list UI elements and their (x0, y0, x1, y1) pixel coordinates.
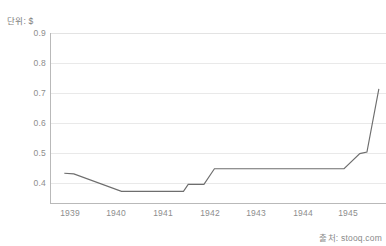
y-axis-line (50, 33, 51, 204)
chart-title-clipped (0, 0, 386, 1)
chart-container: 단위: $ 0.9 0.8 0.7 0.6 0.5 0.4 1939 1940 … (0, 0, 386, 246)
y-tick-label: 0.5 (6, 148, 46, 158)
y-tick-label: 0.8 (6, 58, 46, 68)
x-tick-label: 1941 (153, 208, 173, 218)
x-tick-label: 1940 (106, 208, 126, 218)
x-tick-label: 1942 (200, 208, 220, 218)
x-tick-label: 1939 (60, 208, 80, 218)
y-tick-label: 0.6 (6, 118, 46, 128)
x-tick-label: 1945 (338, 208, 358, 218)
y-tick-label: 0.9 (6, 28, 46, 38)
y-tick-label: 0.7 (6, 88, 46, 98)
x-tick-label: 1943 (246, 208, 266, 218)
plot-area (50, 33, 386, 203)
y-axis-ticks: 0.9 0.8 0.7 0.6 0.5 0.4 (0, 0, 46, 246)
y-tick-label: 0.4 (6, 178, 46, 188)
source-label: 출처: stooq.com (319, 231, 382, 243)
x-axis-line (50, 203, 386, 204)
data-series-line (50, 33, 386, 204)
x-tick-label: 1944 (293, 208, 313, 218)
